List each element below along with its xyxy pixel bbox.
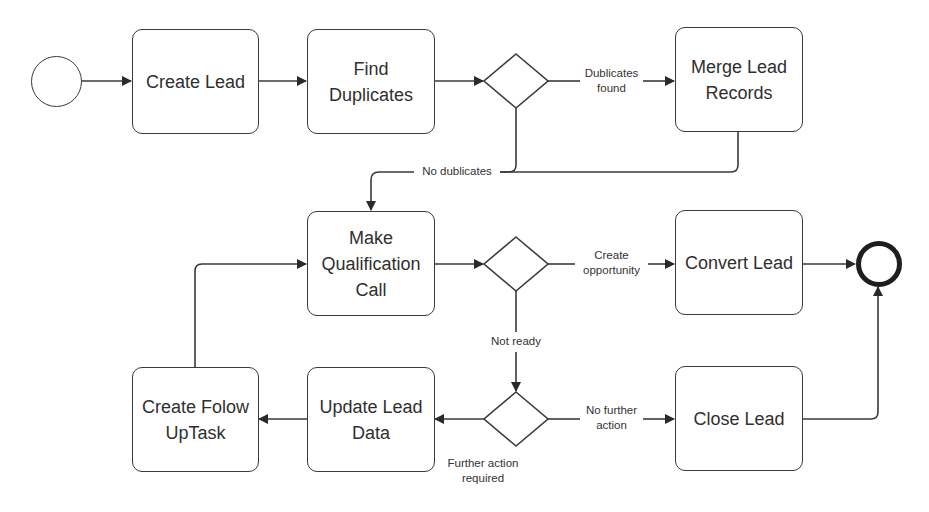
end-event — [856, 241, 902, 287]
task-find-duplicates-label-line2: Duplicates — [329, 82, 413, 108]
task-merge-lead-records: Merge Lead Records — [675, 27, 803, 132]
task-merge-lead-records-label-line2: Records — [691, 80, 787, 106]
flow-followup-to-qualification — [195, 264, 306, 367]
gateway-qualification-result — [484, 237, 548, 291]
task-close-lead-label: Close Lead — [693, 406, 784, 432]
flow-label-no-duplicates-text: No dublicates — [422, 165, 492, 177]
task-find-duplicates: Find Duplicates — [307, 29, 435, 134]
task-convert-lead-label: Convert Lead — [685, 250, 793, 276]
gateway-further-action-check — [484, 392, 548, 446]
task-merge-lead-records-label-line1: Merge Lead — [691, 54, 787, 80]
task-qualification-label-line2: Qualification — [321, 251, 420, 277]
flow-label-duplicates-found-line1: Dublicates — [580, 66, 643, 81]
flow-label-no-further-action-line1: No further — [580, 403, 643, 418]
flow-close-to-end — [802, 287, 878, 419]
task-update-lead-label-line2: Data — [319, 420, 422, 446]
gateway-duplicates-check — [484, 54, 548, 108]
flow-label-duplicates-found-line2: found — [580, 81, 643, 96]
task-create-follow-up-task: Create Folow UpTask — [132, 367, 259, 472]
task-follow-up-label-line1: Create Folow — [142, 394, 249, 420]
flow-gateway-no-duplicates — [500, 108, 516, 172]
task-create-lead-label: Create Lead — [146, 69, 245, 95]
flow-label-no-duplicates: No dublicates — [414, 164, 500, 179]
flow-label-further-action-line2: required — [440, 471, 526, 486]
task-update-lead-data: Update Lead Data — [307, 367, 435, 472]
bpmn-diagram: Create Lead Find Duplicates Merge Lead R… — [0, 0, 929, 512]
task-qualification-label-line3: Call — [321, 277, 420, 303]
task-make-qualification-call: Make Qualification Call — [307, 211, 435, 316]
flow-label-further-action-required: Further action required — [440, 456, 526, 486]
task-convert-lead: Convert Lead — [675, 210, 803, 315]
task-update-lead-label-line1: Update Lead — [319, 394, 422, 420]
flow-label-create-opportunity-line1: Create — [575, 248, 648, 263]
flow-label-no-further-action-line2: action — [580, 418, 643, 433]
flow-label-not-ready: Not ready — [486, 334, 546, 349]
flow-label-create-opportunity-line2: opportunity — [575, 263, 648, 278]
task-close-lead: Close Lead — [675, 366, 803, 471]
flow-label-further-action-line1: Further action — [440, 456, 526, 471]
flow-label-not-ready-text: Not ready — [491, 335, 541, 347]
flow-label-no-further-action: No further action — [580, 403, 643, 433]
flow-label-create-opportunity: Create opportunity — [575, 248, 648, 278]
flow-no-duplicates-to-qualification — [371, 172, 415, 210]
task-find-duplicates-label-line1: Find — [329, 56, 413, 82]
start-event — [31, 56, 82, 107]
task-create-lead: Create Lead — [132, 29, 259, 134]
task-qualification-label-line1: Make — [321, 225, 420, 251]
flow-merge-to-qualification — [500, 131, 738, 172]
flow-label-duplicates-found: Dublicates found — [580, 66, 643, 96]
task-follow-up-label-line2: UpTask — [142, 420, 249, 446]
